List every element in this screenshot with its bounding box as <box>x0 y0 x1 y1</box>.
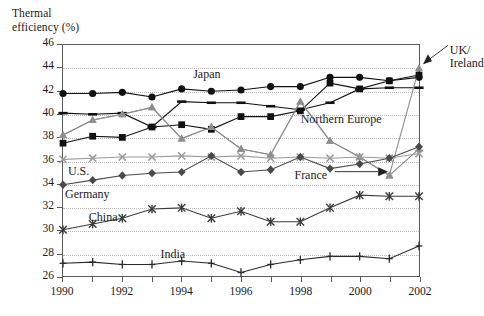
france-arrowhead <box>378 167 388 176</box>
uk-ireland-arrowhead <box>423 54 432 64</box>
